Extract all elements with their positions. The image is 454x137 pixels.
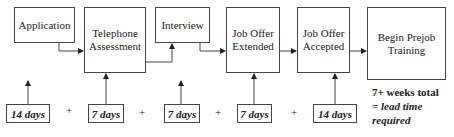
- total-line-3: required: [372, 113, 439, 127]
- duration-box: 7 days: [237, 104, 272, 123]
- plus-sign: +: [213, 106, 223, 118]
- step-label: Begin Prejob Training: [378, 31, 436, 57]
- step-interview: Interview: [155, 7, 210, 43]
- total-line-2: = lead time: [372, 99, 439, 113]
- step-begin-prejob-training: Begin Prejob Training: [367, 7, 446, 80]
- total-line-1: 7+ weeks total: [372, 85, 439, 99]
- lead-time-total: 7+ weeks total = lead time required: [372, 85, 439, 127]
- duration-label: 7 days: [92, 108, 120, 120]
- step-label: Application: [19, 19, 71, 32]
- step-application: Application: [14, 7, 75, 43]
- duration-box: 14 days: [313, 104, 357, 123]
- step-telephone-assessment: Telephone Assessment: [84, 7, 146, 73]
- plus-sign: +: [137, 106, 147, 118]
- step-label: Telephone Assessment: [89, 27, 141, 53]
- plus-sign: +: [64, 104, 74, 116]
- duration-label: 7 days: [168, 108, 196, 120]
- duration-label: 14 days: [11, 108, 45, 120]
- duration-label: 7 days: [240, 108, 268, 120]
- step-label: Job Offer Extended: [232, 27, 274, 53]
- plus-sign: +: [289, 106, 299, 118]
- duration-label: 14 days: [318, 108, 352, 120]
- duration-box: 7 days: [88, 104, 124, 123]
- step-job-offer-extended: Job Offer Extended: [226, 7, 280, 73]
- step-label: Job Offer Accepted: [303, 27, 345, 53]
- step-job-offer-accepted: Job Offer Accepted: [297, 7, 350, 73]
- step-label: Interview: [161, 19, 203, 32]
- duration-box: 7 days: [164, 104, 200, 123]
- duration-box: 14 days: [6, 104, 50, 123]
